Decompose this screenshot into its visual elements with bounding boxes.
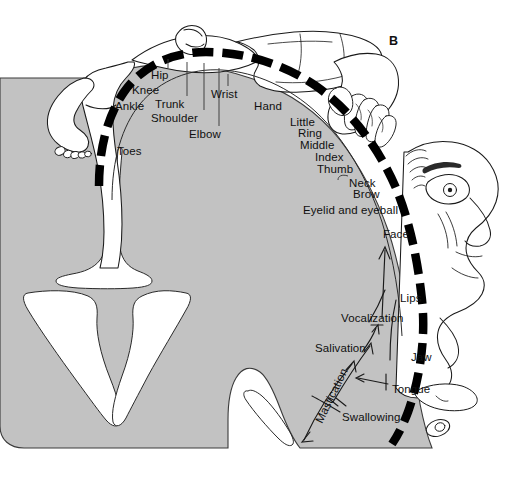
label-knee: Knee: [132, 85, 159, 97]
label-hip: Hip: [151, 70, 169, 82]
label-swallowing: Swallowing: [342, 412, 401, 424]
label-shoulder: Shoulder: [151, 113, 198, 125]
label-jaw: Jaw: [411, 352, 432, 364]
label-elbow: Elbow: [189, 129, 221, 141]
label-toes: Toes: [117, 146, 142, 158]
motor-homunculus-figure: B Toes Ankle Knee Hip Trunk Shoulder Elb…: [0, 0, 522, 479]
label-trunk: Trunk: [155, 99, 184, 111]
label-tongue: Tongue: [392, 384, 430, 396]
label-thumb: Thumb: [317, 164, 353, 176]
label-face: Face: [383, 229, 409, 241]
label-middle: Middle: [300, 140, 334, 152]
label-hand: Hand: [254, 101, 282, 113]
label-eyelid-and-eyeball: Eyelid and eyeball: [303, 205, 398, 217]
panel-letter: B: [389, 35, 398, 48]
label-ankle: Ankle: [115, 101, 144, 113]
pupil: [448, 188, 452, 192]
label-wrist: Wrist: [211, 89, 237, 101]
label-index: Index: [315, 152, 344, 164]
figure-illustration: [0, 0, 522, 479]
label-lips: Lips: [400, 293, 422, 305]
label-brow: Brow: [353, 189, 380, 201]
label-vocalization: Vocalization: [341, 313, 404, 325]
label-salivation: Salivation: [315, 343, 366, 355]
label-ring: Ring: [298, 128, 322, 140]
